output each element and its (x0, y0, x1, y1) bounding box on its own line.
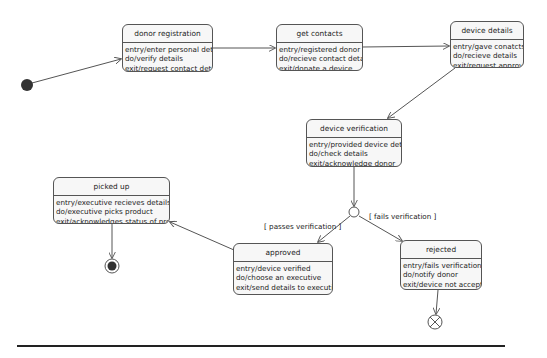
state-name: rejected (401, 241, 481, 259)
transition-device-details-to-device-verification (388, 68, 455, 118)
do-activity: do/check details (309, 149, 399, 158)
state-device-verification: device verification entry/provided devic… (306, 119, 402, 167)
exit-activity: exit/acknowledge donor (309, 159, 399, 167)
exit-activity: exit/acknowledges status of product (56, 217, 167, 224)
do-activity: do/executive picks product (56, 207, 167, 216)
state-device-details: device details entry/gave conatcts do/re… (450, 21, 524, 68)
exit-activity: exit/send details to executive (236, 283, 330, 292)
state-activities: entry/device verified do/choose an execu… (234, 262, 332, 294)
do-activity: do/notify donor (403, 270, 479, 279)
exit-activity: exit/device not accepted (403, 280, 479, 289)
state-name: approved (234, 244, 332, 262)
exit-activity: exit/request approval (453, 61, 521, 68)
entry-activity: entry/enter personal details (125, 45, 210, 54)
do-activity: do/recieve contact details (279, 54, 360, 63)
final-state-icon (105, 259, 119, 273)
guard-passes-verification: [ passes verification ] (264, 222, 341, 231)
terminate-node-icon (428, 315, 442, 329)
state-name: picked up (54, 178, 169, 196)
transition-approved-to-picked-up (170, 222, 234, 250)
state-activities: entry/fails verification do/notify donor… (401, 259, 481, 290)
state-get-contacts: get contacts entry/registered donor do/r… (276, 24, 363, 71)
state-name: device verification (307, 120, 401, 138)
state-picked-up: picked up entry/executive recieves detai… (53, 177, 170, 224)
state-name: device details (451, 22, 523, 40)
do-activity: do/choose an executive (236, 273, 330, 282)
entry-activity: entry/registered donor (279, 45, 360, 54)
state-activities: entry/registered donor do/recieve contac… (277, 43, 362, 71)
state-diagram-canvas: donor registration entry/enter personal … (0, 0, 547, 358)
state-approved: approved entry/device verified do/choose… (233, 243, 333, 295)
state-name: get contacts (277, 25, 362, 43)
do-activity: do/verify details (125, 54, 210, 63)
choice-node-icon (349, 207, 359, 217)
entry-activity: entry/provided device details (309, 140, 399, 149)
guard-fails-verification: [ fails verification ] (369, 212, 436, 221)
exit-activity: exit/donate a device (279, 64, 360, 71)
entry-activity: entry/gave conatcts (453, 42, 521, 51)
state-activities: entry/enter personal details do/verify d… (123, 43, 212, 72)
state-rejected: rejected entry/fails verification do/not… (400, 240, 482, 290)
do-activity: do/recieve details (453, 51, 521, 60)
state-name: donor registration (123, 25, 212, 43)
entry-activity: entry/device verified (236, 264, 330, 273)
transition-get-contacts-to-device-details (362, 46, 449, 47)
entry-activity: entry/fails verification (403, 261, 479, 270)
exit-activity: exit/request contact details (125, 64, 210, 72)
state-activities: entry/executive recieves details do/exec… (54, 196, 169, 224)
transition-rejected-to-terminate (436, 290, 438, 314)
transition-initial-to-donor-registration (32, 59, 121, 83)
entry-activity: entry/executive recieves details (56, 198, 167, 207)
state-donor-registration: donor registration entry/enter personal … (122, 24, 213, 72)
initial-state-icon (21, 79, 33, 91)
state-activities: entry/gave conatcts do/recieve details e… (451, 40, 523, 68)
state-activities: entry/provided device details do/check d… (307, 138, 401, 167)
